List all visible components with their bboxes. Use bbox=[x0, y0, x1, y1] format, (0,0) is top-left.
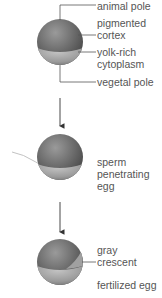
label-crescent: crescent bbox=[97, 256, 137, 268]
unfertilized-egg bbox=[37, 5, 96, 82]
diagram-graphics bbox=[0, 0, 162, 298]
label-gray: gray bbox=[97, 244, 117, 256]
label-cortex: cortex bbox=[97, 29, 126, 41]
label-animal-pole: animal pole bbox=[97, 0, 151, 12]
sperm-penetrating-egg bbox=[12, 134, 83, 181]
fertilized-egg bbox=[37, 239, 96, 286]
label-egg: egg bbox=[97, 180, 115, 192]
label-sperm: sperm bbox=[97, 156, 126, 168]
label-cytoplasm: cytoplasm bbox=[97, 58, 144, 70]
label-vegetal-pole: vegetal pole bbox=[97, 76, 154, 88]
label-penetrating: penetrating bbox=[97, 168, 150, 180]
label-yolk-rich: yolk-rich bbox=[97, 46, 136, 58]
label-fertilized-egg: fertilized egg bbox=[97, 279, 157, 291]
label-pigmented: pigmented bbox=[97, 17, 146, 29]
